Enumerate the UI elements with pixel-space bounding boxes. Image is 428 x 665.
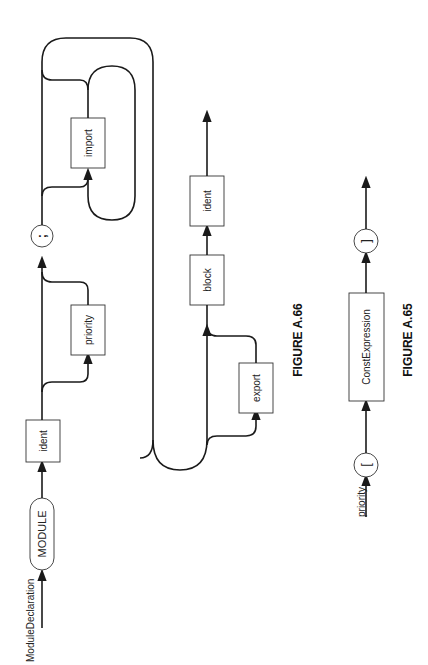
left-bracket-label: [ (358, 463, 373, 467)
module-keyword-label: MODULE (36, 510, 48, 557)
export-branch (207, 414, 256, 445)
priority-branch (42, 358, 88, 392)
figure-caption-a66: FIGURE A.66 (291, 303, 305, 377)
start-label-module-declaration: ModuleDeclaration (25, 579, 36, 662)
block-label: block (202, 267, 213, 291)
ident-label-1: ident (38, 430, 49, 452)
import-branch (42, 174, 88, 196)
export-return (207, 326, 256, 363)
semicolon-label: ; (34, 234, 49, 238)
figure-a66: MODULE ident priority ; import export (26, 38, 305, 628)
figure-caption-a65: FIGURE A.65 (401, 303, 415, 377)
syntax-diagram-canvas: MODULE ident priority ; import export (0, 0, 428, 665)
import-return (42, 70, 88, 118)
ident-label-2: ident (202, 190, 213, 212)
export-label: export (251, 374, 262, 402)
figure-a65: priority [ ConstExpression ] FIGURE A.65 (349, 182, 415, 517)
right-bracket-label: ] (358, 239, 373, 243)
priority-label: priority (83, 315, 94, 345)
import-label: import (83, 129, 94, 157)
descent-to-block (153, 330, 207, 470)
outer-loop (42, 38, 153, 458)
const-expression-label: ConstExpression (361, 309, 372, 385)
priority-return (42, 272, 88, 305)
